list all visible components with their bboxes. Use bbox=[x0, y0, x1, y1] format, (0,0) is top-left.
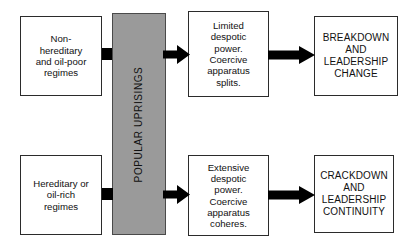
box-crackdown-outcome: CRACKDOWN AND LEADERSHIP CONTINUITY bbox=[314, 155, 394, 233]
connector-hereditary-to-band bbox=[102, 188, 113, 200]
box-breakdown-outcome-label: BREAKDOWN AND LEADERSHIP CHANGE bbox=[320, 32, 392, 79]
box-extensive-despotic-power-label: Extensive despotic power. Coercive appar… bbox=[204, 162, 253, 230]
arrow-band-to-extensive-icon bbox=[163, 185, 190, 204]
box-limited-despotic-power-label: Limited despotic power. Coercive apparat… bbox=[204, 20, 253, 88]
box-nonhereditary-regimes: Non- hereditary and oil-poor regimes bbox=[20, 16, 102, 96]
box-hereditary-regimes: Hereditary or oil-rich regimes bbox=[20, 155, 102, 235]
band-popular-uprisings-label: POPULAR UPRISINGS bbox=[134, 66, 145, 182]
band-popular-uprisings: POPULAR UPRISINGS bbox=[112, 13, 166, 235]
box-breakdown-outcome: BREAKDOWN AND LEADERSHIP CHANGE bbox=[314, 16, 398, 96]
arrow-band-to-limited-icon bbox=[163, 45, 190, 64]
box-crackdown-outcome-label: CRACKDOWN AND LEADERSHIP CONTINUITY bbox=[317, 170, 391, 217]
box-hereditary-regimes-label: Hereditary or oil-rich regimes bbox=[30, 178, 91, 212]
flow-diagram: Non- hereditary and oil-poor regimes Lim… bbox=[0, 0, 413, 252]
arrow-limited-to-breakdown-icon bbox=[268, 46, 315, 64]
box-limited-despotic-power: Limited despotic power. Coercive apparat… bbox=[188, 11, 269, 97]
arrow-extensive-to-crackdown-icon bbox=[268, 186, 315, 204]
box-extensive-despotic-power: Extensive despotic power. Coercive appar… bbox=[188, 155, 269, 236]
box-nonhereditary-regimes-label: Non- hereditary and oil-poor regimes bbox=[33, 33, 90, 78]
